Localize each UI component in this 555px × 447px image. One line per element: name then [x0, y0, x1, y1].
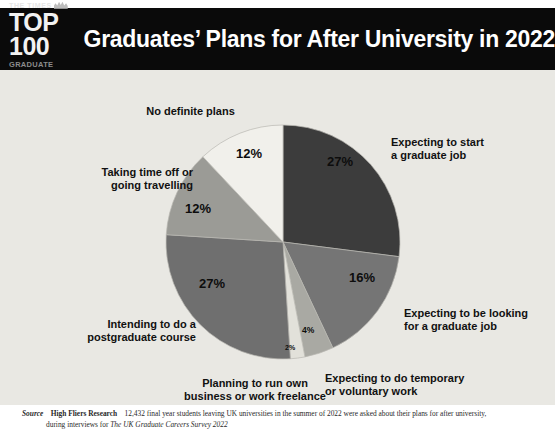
footnote-survey-name: The UK Graduate Careers Survey 2022 — [110, 420, 227, 429]
slice-value-time-off-travelling: 12% — [185, 201, 211, 216]
slice-label-expecting-start-job: Expecting to start a graduate job — [391, 136, 541, 163]
header-bar: THE TIMES TOP 100 GRADUATE EMPLOYERS Gra… — [0, 8, 555, 70]
pie-slice-group — [166, 125, 400, 359]
slice-value-postgraduate-course: 27% — [199, 276, 225, 291]
logo-top100-text: TOP 100 — [9, 11, 74, 59]
pie-slice — [283, 125, 400, 257]
times-crest-icon — [54, 2, 68, 9]
slice-label-temporary-work: Expecting to do temporary or voluntary w… — [325, 372, 495, 399]
footnote-description: 12,432 final year students leaving UK un… — [125, 409, 487, 418]
slice-value-temporary-work: 4% — [302, 325, 314, 335]
slice-label-no-definite-plans: No definite plans — [118, 105, 263, 118]
slice-value-looking-for-job: 16% — [349, 270, 375, 285]
slice-value-no-definite-plans: 12% — [236, 146, 262, 161]
slice-value-own-business: 2% — [285, 344, 295, 351]
footnote-line-1: Source High Fliers Research 12,432 final… — [22, 409, 537, 420]
footnote-organisation: High Fliers Research — [51, 409, 117, 418]
page-title: Graduates’ Plans for After University in… — [84, 26, 555, 53]
chart-panel: 27% 16% 4% 2% 27% 12% 12% Expecting to s… — [0, 70, 555, 405]
slice-value-expecting-start-job: 27% — [327, 154, 353, 169]
slice-label-looking-for-job: Expecting to be looking for a graduate j… — [404, 307, 554, 334]
source-footnote: Source High Fliers Research 12,432 final… — [0, 405, 555, 447]
footnote-interview-text: during interviews for — [46, 420, 110, 429]
footnote-line-2: during interviews for The UK Graduate Ca… — [22, 420, 537, 431]
slice-label-time-off-travelling: Taking time off or going travelling — [38, 166, 193, 193]
pie-chart — [0, 70, 555, 405]
times-top100-logo: THE TIMES TOP 100 GRADUATE EMPLOYERS — [9, 2, 74, 77]
slice-label-postgraduate-course: Intending to do a postgraduate course — [48, 318, 196, 345]
slice-label-own-business: Planning to run own business or work fre… — [175, 377, 335, 404]
footnote-source-label: Source — [22, 409, 43, 418]
